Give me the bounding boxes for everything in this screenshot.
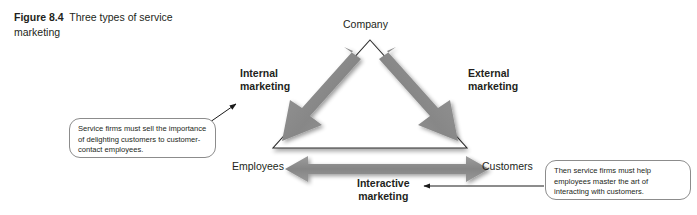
arrow-label-interactive-marketing: Interactive marketing (357, 177, 410, 203)
arrow-label-external-marketing: External marketing (468, 67, 518, 93)
arrow-label-internal-marketing: Internal marketing (240, 67, 290, 93)
arrow-label-interactive-line1: Interactive (357, 177, 410, 190)
arrow-label-internal-line2: marketing (240, 80, 290, 93)
callout-right-text: Then service firms must help employees m… (554, 166, 682, 198)
vertex-label-employees: Employees (232, 160, 284, 172)
arrow-label-external-line1: External (468, 67, 518, 80)
arrow-label-external-line2: marketing (468, 80, 518, 93)
vertex-label-customers: Customers (482, 160, 533, 172)
arrow-label-internal-line1: Internal (240, 67, 290, 80)
callout-right: Then service firms must help employees m… (545, 160, 691, 200)
vertex-label-company: Company (343, 18, 388, 30)
callout-left-text: Service firms must sell the importance o… (78, 124, 207, 156)
callout-left: Service firms must sell the importance o… (69, 118, 216, 158)
arrow-label-interactive-line2: marketing (357, 190, 410, 203)
figure-container: Figure 8.4 Three types of service market… (0, 0, 697, 215)
